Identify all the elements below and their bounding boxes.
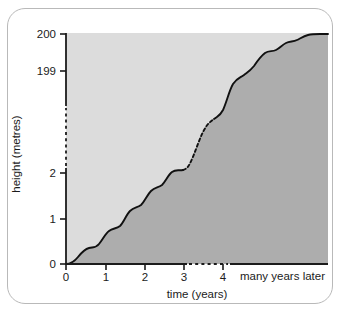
x-axis-many-years-later-label: many years later [240, 270, 325, 282]
y-axis-title: height (metres) [10, 104, 22, 204]
x-tick-label-0: 0 [52, 272, 80, 284]
x-tick-label-3: 3 [170, 272, 198, 284]
y-tick-label-199: 199 [8, 66, 56, 78]
x-axis-title: time (years) [66, 288, 328, 300]
x-tick-label-2: 2 [131, 272, 159, 284]
y-tick-label-1: 1 [8, 214, 56, 226]
y-tick-label-200: 200 [8, 29, 56, 41]
x-tick-label-1: 1 [92, 272, 120, 284]
chart-figure: 200 199 2 1 0 0 1 2 3 4 many years later… [0, 0, 348, 318]
y-tick-label-0: 0 [8, 259, 56, 271]
x-tick-label-4: 4 [209, 272, 237, 284]
